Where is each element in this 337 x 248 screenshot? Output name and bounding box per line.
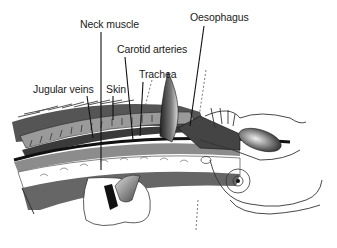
- label-skin: Skin: [106, 83, 126, 95]
- label-trachea: Trachea: [139, 68, 176, 80]
- label-carotid-arteries: Carotid arteries: [117, 43, 187, 55]
- label-neck-muscle: Neck muscle: [80, 18, 139, 30]
- anatomy-illustration: [0, 0, 337, 248]
- neck-anatomy-diagram: Neck muscle Carotid arteries Oesophagus …: [0, 0, 337, 248]
- leader-carotid: [125, 57, 133, 140]
- laryngoscope-blade: [160, 72, 178, 142]
- tongue-cuff: [236, 124, 284, 157]
- leader-oesophagus: [190, 26, 204, 126]
- label-oesophagus: Oesophagus: [190, 11, 249, 23]
- label-jugular-veins: Jugular veins: [33, 83, 94, 95]
